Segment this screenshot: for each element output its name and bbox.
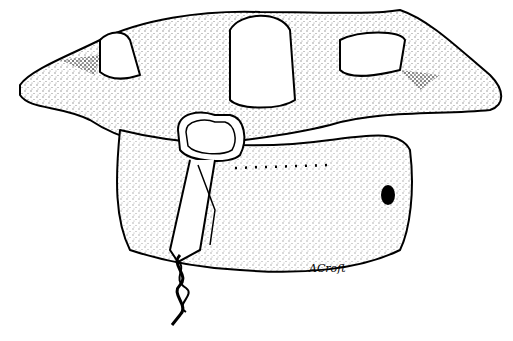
- artist-signature: ACroft: [309, 262, 346, 275]
- vertebrae-drawing: [0, 0, 513, 341]
